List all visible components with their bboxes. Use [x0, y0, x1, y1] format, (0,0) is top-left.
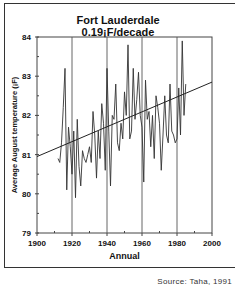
plot-area — [37, 37, 212, 233]
source-note: Source: Taha, 1991 — [157, 277, 232, 286]
line-chart: 190019201940196019802000798081828384Annu… — [0, 0, 236, 293]
y-tick-label: 82 — [22, 111, 31, 120]
x-tick-label: 1900 — [28, 239, 46, 248]
y-tick-label: 83 — [22, 72, 31, 81]
y-tick-label: 79 — [22, 229, 31, 238]
x-axis-label: Annual — [109, 251, 140, 261]
x-tick-label: 1920 — [63, 239, 81, 248]
x-tick-label: 1960 — [133, 239, 151, 248]
y-tick-label: 80 — [22, 190, 31, 199]
y-tick-label: 81 — [22, 151, 31, 160]
x-tick-label: 1980 — [168, 239, 186, 248]
data-line — [58, 41, 186, 198]
x-tick-label: 2000 — [203, 239, 221, 248]
y-tick-label: 84 — [22, 33, 31, 42]
y-axis-label: Average August temperature (¡F) — [10, 76, 19, 193]
x-tick-label: 1940 — [98, 239, 116, 248]
